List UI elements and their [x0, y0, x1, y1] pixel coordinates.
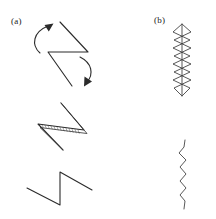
a-stage1-arrow-left-curve — [35, 26, 48, 53]
a-stage3-group — [27, 172, 92, 205]
a-stage1-arrow-right-head — [84, 77, 92, 87]
a-stage1-group — [35, 22, 92, 87]
figure-canvas: (a) (b) — [0, 0, 216, 219]
figure-drawing — [0, 0, 216, 219]
b-stage1-zigzag-right-path — [174, 24, 191, 96]
panel-b-group — [173, 24, 191, 209]
a-stage1-zigzag-path — [48, 22, 88, 86]
a-stage2-zigzag-outer-path — [38, 103, 84, 150]
b-stage2-wave-path — [179, 140, 186, 209]
b-stage2-group — [179, 140, 186, 209]
a-stage2-zigzag-inner-path — [40, 103, 87, 150]
b-stage1-group — [173, 24, 191, 96]
panel-a-group — [27, 22, 92, 205]
a-stage3-zigzag-path — [27, 172, 92, 205]
b-stage1-zigzag-left-path — [173, 24, 190, 96]
a-stage2-group — [38, 103, 87, 150]
